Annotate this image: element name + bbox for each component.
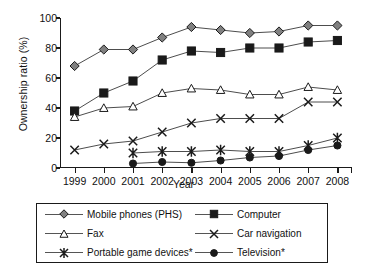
x-tick-label: 1999 <box>63 175 86 187</box>
data-point-diamond <box>216 25 225 34</box>
data-point-diamond <box>245 28 254 37</box>
x-tick-label: 2006 <box>267 175 290 187</box>
legend-label: Mobile phones (PHS) <box>87 209 182 220</box>
series-diamond <box>70 21 342 71</box>
legend-marker-cross-icon <box>195 228 233 240</box>
data-point-circle <box>188 159 195 166</box>
data-point-cross <box>210 230 218 238</box>
data-point-diamond <box>187 22 196 31</box>
data-point-diamond <box>304 21 313 30</box>
chart-plot-region: Ownership ratio (%) Year 020406080100 19… <box>0 0 367 196</box>
x-tick-label: 2001 <box>121 175 144 187</box>
legend-item[interactable]: Fax <box>45 224 195 243</box>
data-point-circle <box>211 249 218 256</box>
series-layer <box>60 18 352 168</box>
data-point-triangle <box>129 102 137 110</box>
x-tick-mark <box>75 168 76 173</box>
series-cross <box>70 98 341 154</box>
x-tick-mark <box>133 168 134 173</box>
y-axis-label: Ownership ratio (%) <box>17 14 29 154</box>
data-point-square <box>275 44 283 52</box>
legend-item[interactable]: Computer <box>195 205 337 224</box>
data-point-asterisk <box>60 248 68 258</box>
data-point-square <box>100 89 108 97</box>
data-point-circle <box>217 157 224 164</box>
data-point-square <box>304 38 312 46</box>
data-point-triangle <box>304 83 312 91</box>
x-tick-mark <box>337 168 338 173</box>
data-point-circle <box>159 158 166 165</box>
data-point-diamond <box>99 45 108 54</box>
series-asterisk <box>129 133 342 159</box>
data-point-circle <box>129 160 136 167</box>
data-point-diamond <box>333 21 342 30</box>
legend-marker-asterisk-icon <box>45 247 83 259</box>
data-point-square <box>187 47 195 55</box>
y-tick-label: 100 <box>39 12 57 24</box>
x-tick-mark <box>191 168 192 173</box>
x-tick-label: 2003 <box>180 175 203 187</box>
x-tick-label: 2002 <box>151 175 174 187</box>
legend-item[interactable]: Car navigation <box>195 224 337 243</box>
data-point-diamond <box>70 61 79 70</box>
data-point-square <box>129 77 137 85</box>
legend-item[interactable]: Portable game devices* <box>45 243 195 262</box>
legend-marker-triangle-icon <box>45 228 83 240</box>
chart-figure: Ownership ratio (%) Year 020406080100 19… <box>0 0 367 273</box>
legend-marker-square-icon <box>195 208 233 220</box>
data-point-triangle <box>187 84 195 92</box>
data-point-diamond <box>60 210 68 218</box>
x-tick-label: 2007 <box>297 175 320 187</box>
data-point-square <box>217 48 225 56</box>
data-point-circle <box>334 142 341 149</box>
x-tick-mark <box>250 168 251 173</box>
data-point-diamond <box>128 45 137 54</box>
x-tick-mark <box>279 168 280 173</box>
data-point-square <box>210 211 217 218</box>
x-tick-mark <box>221 168 222 173</box>
chart-legend: Mobile phones (PHS)ComputerFaxCar naviga… <box>36 203 328 263</box>
legend-marker-diamond-icon <box>45 208 83 220</box>
data-point-triangle <box>60 230 68 237</box>
legend-label: Portable game devices* <box>87 247 193 258</box>
data-point-circle <box>305 146 312 153</box>
data-point-square <box>246 44 254 52</box>
legend-item[interactable]: Mobile phones (PHS) <box>45 205 195 224</box>
x-tick-label: 2000 <box>92 175 115 187</box>
x-tick-label: 2005 <box>238 175 261 187</box>
data-point-square <box>158 56 166 64</box>
plot-canvas: 020406080100 199920002001200220032004200… <box>60 18 352 168</box>
data-point-cross <box>158 128 166 136</box>
data-point-circle <box>275 152 282 159</box>
x-tick-label: 2004 <box>209 175 232 187</box>
legend-label: Car navigation <box>237 228 301 239</box>
legend-item[interactable]: Television* <box>195 243 337 262</box>
data-point-diamond <box>158 33 167 42</box>
legend-label: Computer <box>237 209 281 220</box>
legend-label: Fax <box>87 228 104 239</box>
data-point-square <box>333 36 341 44</box>
x-axis-end-tick <box>351 168 352 173</box>
series-triangle <box>70 83 341 121</box>
x-tick-mark <box>308 168 309 173</box>
x-tick-mark <box>104 168 105 173</box>
x-tick-label: 2008 <box>326 175 349 187</box>
legend-marker-circle-icon <box>195 247 233 259</box>
data-point-diamond <box>274 27 283 36</box>
data-point-cross <box>70 146 78 154</box>
series-square <box>71 36 342 115</box>
legend-label: Television* <box>237 247 285 258</box>
data-point-circle <box>246 154 253 161</box>
x-tick-mark <box>162 168 163 173</box>
